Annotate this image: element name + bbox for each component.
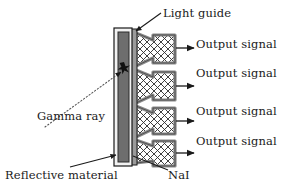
leader-reflective-material [70, 155, 116, 167]
label-output-signal-1: Output signal [196, 39, 277, 51]
output-arrows [176, 48, 194, 153]
pmt-4 [136, 140, 175, 166]
label-gamma-ray: Gamma ray [37, 111, 105, 123]
pmt-2 [136, 70, 175, 103]
label-light-guide: Light guide [163, 8, 231, 20]
nai-crystal [118, 32, 129, 162]
leader-light-guide [136, 13, 161, 31]
label-output-signal-2: Output signal [196, 68, 277, 80]
label-nai: NaI [168, 170, 190, 182]
label-output-signal-3: Output signal [196, 106, 277, 118]
pmt-group [136, 33, 175, 166]
pmt-1 [136, 33, 175, 66]
label-reflective-material: Reflective material [5, 170, 118, 182]
label-output-signal-4: Output signal [196, 136, 277, 148]
figure-canvas: Light guide Gamma ray Reflective materia… [0, 0, 289, 190]
detector-diagram [0, 0, 289, 190]
pmt-3 [136, 106, 175, 137]
